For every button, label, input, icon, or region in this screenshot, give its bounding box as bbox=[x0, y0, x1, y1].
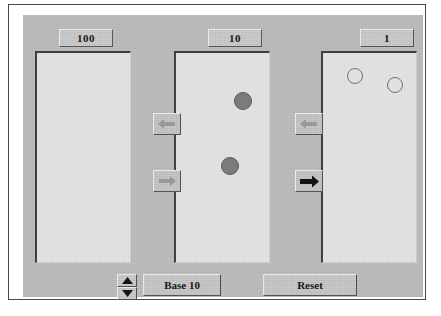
counter-disc[interactable] bbox=[387, 77, 403, 93]
counter-disc[interactable] bbox=[347, 68, 363, 84]
place-value-label-ones[interactable]: 1 bbox=[360, 29, 414, 47]
arrow-right-icon bbox=[158, 175, 176, 187]
applet-panel: 100 10 1 bbox=[23, 15, 423, 297]
place-value-label-hundreds[interactable]: 100 bbox=[59, 29, 113, 47]
counter-disc[interactable] bbox=[221, 157, 239, 175]
base-display-button[interactable]: Base 10 bbox=[143, 274, 221, 296]
arrow-left-icon bbox=[158, 118, 176, 130]
application-root: 100 10 1 bbox=[0, 0, 441, 316]
arrow-right-icon bbox=[299, 175, 319, 188]
base-spinner[interactable] bbox=[117, 274, 137, 300]
triangle-up-icon bbox=[122, 277, 133, 284]
transfer-right-button-ones-tens[interactable] bbox=[295, 170, 323, 192]
triangle-down-icon bbox=[122, 290, 133, 297]
column-tens[interactable] bbox=[174, 51, 270, 263]
base-spinner-down-button[interactable] bbox=[117, 287, 137, 300]
reset-button[interactable]: Reset bbox=[263, 274, 357, 296]
transfer-left-button-tens-ones[interactable] bbox=[295, 113, 323, 135]
transfer-right-button-tens-hundreds[interactable] bbox=[153, 170, 181, 192]
window-frame: 100 10 1 bbox=[8, 4, 426, 300]
column-hundreds[interactable] bbox=[35, 51, 131, 263]
base-spinner-up-button[interactable] bbox=[117, 274, 137, 287]
transfer-left-button-hundreds-tens[interactable] bbox=[153, 113, 181, 135]
arrow-left-icon bbox=[300, 118, 318, 130]
column-ones[interactable] bbox=[321, 51, 417, 263]
place-value-label-tens[interactable]: 10 bbox=[208, 29, 262, 47]
counter-disc[interactable] bbox=[234, 92, 252, 110]
